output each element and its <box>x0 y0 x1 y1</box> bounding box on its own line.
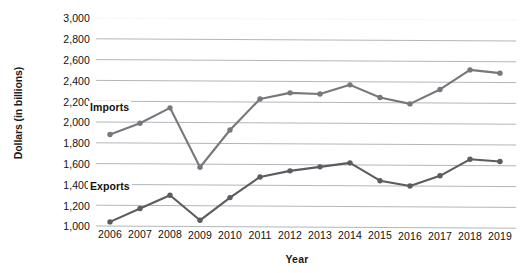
data-point-marker <box>167 192 172 197</box>
data-point-marker <box>137 206 142 211</box>
data-point-marker <box>317 91 322 96</box>
x-axis-tick-labels: 2006200720082009201020112012201320142015… <box>0 228 532 250</box>
data-point-marker <box>407 183 412 188</box>
x-axis-tick-label: 2011 <box>249 229 272 241</box>
x-axis-tick-label: 2010 <box>218 229 242 241</box>
data-point-marker <box>107 219 112 224</box>
data-point-marker <box>257 174 262 179</box>
series-line-exports <box>110 159 500 222</box>
data-point-marker <box>437 173 442 178</box>
data-point-marker <box>137 121 142 126</box>
data-point-marker <box>347 160 352 165</box>
x-axis-tick-label: 2014 <box>338 229 362 241</box>
data-point-marker <box>257 96 262 101</box>
x-axis-tick-label: 2016 <box>398 230 422 242</box>
line-chart: Dollars (in billions) 3,0002,8002,6002,4… <box>0 0 532 273</box>
x-axis-tick-label: 2017 <box>428 230 452 242</box>
data-point-marker <box>287 168 292 173</box>
gridline <box>96 101 516 103</box>
gridline <box>96 184 516 186</box>
data-point-marker <box>377 95 382 100</box>
series-line-imports <box>110 70 500 167</box>
gridline <box>96 143 516 145</box>
data-point-marker <box>497 159 502 164</box>
data-series-layer <box>107 67 502 224</box>
x-axis-tick-label: 2006 <box>98 228 122 240</box>
data-point-marker <box>197 218 202 223</box>
x-axis-tick-label: 2018 <box>458 230 482 242</box>
data-point-marker <box>407 101 412 106</box>
data-point-marker <box>227 127 232 132</box>
x-axis-tick-label: 2015 <box>368 229 392 241</box>
gridline <box>96 18 516 20</box>
x-axis-tick-label: 2019 <box>488 230 512 242</box>
data-point-marker <box>107 132 112 137</box>
data-point-marker <box>467 157 472 162</box>
x-axis-tick-label: 2008 <box>158 228 182 240</box>
data-point-marker <box>197 165 202 170</box>
x-axis-title: Year <box>0 253 532 265</box>
gridline <box>96 205 516 207</box>
gridline <box>96 39 516 41</box>
x-axis-tick-label: 2009 <box>188 229 212 241</box>
data-point-marker <box>347 82 352 87</box>
x-axis-tick-label: 2007 <box>128 228 152 240</box>
data-point-marker <box>227 195 232 200</box>
x-axis-tick-label: 2013 <box>308 229 332 241</box>
data-point-marker <box>377 178 382 183</box>
data-point-marker <box>497 70 502 75</box>
gridlines <box>96 18 516 228</box>
gridline <box>96 122 516 124</box>
x-axis-tick-label: 2012 <box>278 229 302 241</box>
gridline <box>96 164 516 166</box>
data-point-marker <box>167 105 172 110</box>
series-label-exports: Exports <box>88 180 132 192</box>
data-point-marker <box>287 90 292 95</box>
series-label-imports: Imports <box>88 101 131 113</box>
data-point-marker <box>467 67 472 72</box>
data-point-marker <box>437 87 442 92</box>
gridline <box>96 60 516 62</box>
data-point-marker <box>317 164 322 169</box>
